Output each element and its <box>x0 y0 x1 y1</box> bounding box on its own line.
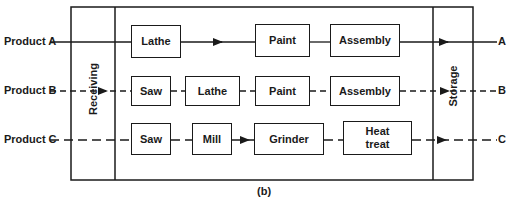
input-label-product-b: Product B <box>4 85 57 96</box>
step-box-b-lathe: Lathe <box>185 76 240 106</box>
input-label-product-a: Product A <box>4 36 56 47</box>
output-label-c: C <box>498 134 506 145</box>
step-box-c-mill: Mill <box>192 123 232 155</box>
flow-lines <box>0 0 508 201</box>
step-box-a-assembly: Assembly <box>330 24 400 57</box>
step-box-b-assembly: Assembly <box>330 76 400 106</box>
step-box-c-grinder: Grinder <box>254 123 324 155</box>
step-box-a-lathe: Lathe <box>131 25 181 58</box>
step-box-c-saw: Saw <box>131 123 171 155</box>
step-box-b-saw: Saw <box>131 76 171 106</box>
step-box-c-heat-treat: Heat treat <box>343 121 412 155</box>
receiving-zone-label: Receiving <box>87 59 99 119</box>
output-label-a: A <box>498 36 506 47</box>
arrow-c-mill <box>240 136 250 144</box>
input-label-product-c: Product C <box>4 134 57 145</box>
arrow-b-receiving <box>98 87 108 95</box>
storage-zone-label: Storage <box>447 56 459 116</box>
step-box-b-paint: Paint <box>255 76 310 106</box>
arrow-c-storage <box>437 136 447 144</box>
figure-caption: (b) <box>257 185 271 197</box>
output-label-b: B <box>498 85 506 96</box>
step-box-a-paint: Paint <box>255 24 310 57</box>
